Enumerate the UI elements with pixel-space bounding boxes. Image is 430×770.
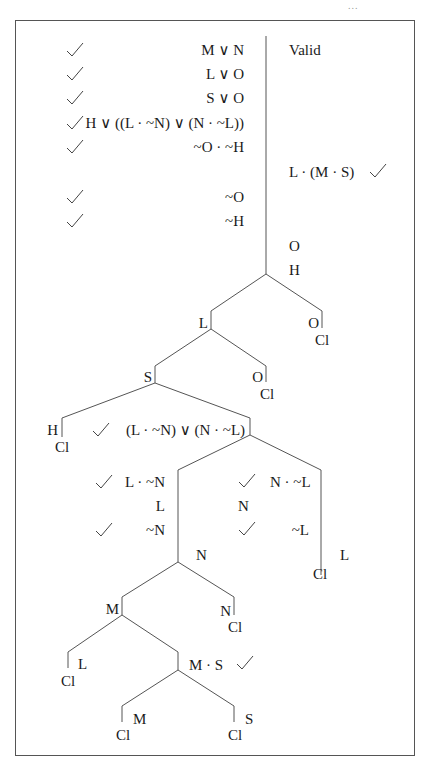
branch-l5 bbox=[122, 562, 234, 615]
closed-marker: Cl bbox=[313, 566, 327, 582]
check-icon bbox=[238, 473, 256, 489]
node-o: O bbox=[308, 315, 319, 331]
check-icon bbox=[95, 522, 113, 538]
check-icon bbox=[95, 474, 113, 490]
premise-2: L ∨ O bbox=[206, 66, 244, 82]
node-m: M bbox=[133, 711, 146, 727]
closed-marker: Cl bbox=[315, 332, 329, 348]
trunk-h: H bbox=[289, 262, 300, 278]
closed-marker: Cl bbox=[260, 386, 274, 402]
closed-marker: Cl bbox=[228, 619, 242, 635]
check-icon bbox=[66, 42, 84, 58]
check-icon bbox=[66, 189, 84, 205]
node-s: S bbox=[144, 369, 152, 385]
node-not-l: ~L bbox=[292, 522, 309, 538]
node-l: L bbox=[340, 547, 349, 563]
node-m: M bbox=[106, 601, 119, 617]
trunk-o: O bbox=[289, 238, 300, 254]
premise-3: S ∨ O bbox=[206, 90, 244, 106]
check-icon bbox=[369, 163, 387, 179]
node-m-and-s: M · S bbox=[189, 657, 223, 673]
node-n: N bbox=[220, 603, 231, 619]
check-icon bbox=[66, 213, 84, 229]
closed-marker: Cl bbox=[55, 439, 69, 455]
branch-l1 bbox=[211, 274, 322, 329]
check-icon bbox=[92, 422, 110, 438]
negated-conclusion: L · (M · S) bbox=[289, 164, 354, 180]
node-l: L bbox=[199, 315, 208, 331]
derived-not-h: ~H bbox=[225, 213, 244, 229]
verdict-label: Valid bbox=[289, 42, 321, 58]
node-h: H bbox=[47, 422, 58, 438]
node-not-n: ~N bbox=[146, 522, 165, 538]
node-s: S bbox=[245, 711, 253, 727]
derived-not-o: ~O bbox=[225, 189, 244, 205]
check-icon bbox=[66, 139, 84, 155]
closed-marker: Cl bbox=[116, 727, 130, 743]
node-l-and-not-n: L · ~N bbox=[125, 474, 165, 490]
premise-5: ~O · ~H bbox=[194, 139, 244, 155]
check-icon bbox=[238, 521, 256, 537]
node-n-and-not-l: N · ~L bbox=[270, 474, 311, 490]
truth-tree-diagram: ... M ∨ N L ∨ O S ∨ O H ∨ ((L · ~N) ∨ (N bbox=[0, 0, 430, 770]
branch-l2 bbox=[155, 329, 266, 383]
node-n: N bbox=[196, 547, 207, 563]
node-l: L bbox=[78, 656, 87, 672]
check-icon bbox=[236, 655, 254, 671]
premise-1: M ∨ N bbox=[201, 42, 244, 58]
closed-marker: Cl bbox=[61, 673, 75, 689]
node-n: N bbox=[238, 498, 249, 514]
node-l: L bbox=[156, 498, 165, 514]
node-o: O bbox=[252, 369, 263, 385]
closed-marker: Cl bbox=[228, 727, 242, 743]
check-icon bbox=[66, 66, 84, 82]
check-icon bbox=[66, 90, 84, 106]
check-icon bbox=[66, 115, 84, 131]
node-disjunction: (L · ~N) ∨ (N · ~L) bbox=[126, 422, 245, 438]
premise-4: H ∨ ((L · ~N) ∨ (N · ~L)) bbox=[86, 115, 244, 131]
